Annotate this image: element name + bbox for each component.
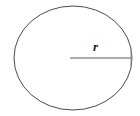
diagram-svg [0, 0, 140, 116]
radius-label: r [93, 40, 98, 53]
circle-radius-diagram: r [0, 0, 140, 116]
